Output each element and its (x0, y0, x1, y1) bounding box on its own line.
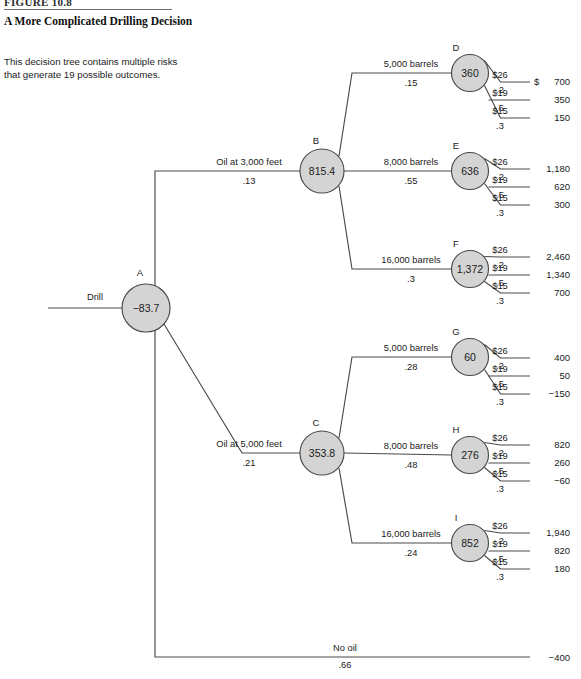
payoff-I-1: 820 (554, 545, 570, 556)
payoff-H-2: −60 (554, 475, 570, 486)
payoff-D-2: 150 (554, 112, 570, 123)
payoff-H-0: 820 (554, 439, 570, 450)
price-label-I-1: $19 (492, 539, 508, 549)
node-value-H: 276 (461, 449, 479, 461)
branch-label-D: 5,000 barrels (384, 59, 439, 69)
price-prob-F-2: .3 (496, 296, 504, 306)
node-id-C: C (313, 417, 320, 428)
price-label-D-1: $19 (492, 88, 508, 98)
node-id-H: H (453, 424, 460, 435)
payoff-H-1: 260 (554, 457, 570, 468)
branch-label-B: Oil at 3,000 feet (216, 157, 282, 167)
payoff-E-2: 300 (554, 199, 570, 210)
payoff-E-0: 1,180 (546, 163, 570, 174)
branch-prob-E: .55 (405, 176, 418, 186)
payoff-G-1: 50 (559, 370, 570, 381)
price-prob-H-2: .3 (496, 484, 504, 494)
price-prob-I-2: .3 (496, 572, 504, 582)
figure-container: FIGURE 10.8 A More Complicated Drilling … (0, 0, 581, 679)
node-id-E: E (453, 140, 459, 151)
price-label-H-0: $26 (492, 433, 508, 443)
price-label-F-1: $19 (492, 263, 508, 273)
node-value-I: 852 (461, 537, 479, 549)
branch-label-G: 5,000 barrels (384, 343, 439, 353)
branch-label-no-oil: No oil (333, 643, 357, 653)
node-value-F: 1,372 (457, 263, 483, 275)
price-label-G-2: $15 (492, 382, 508, 392)
branch-label-E: 8,000 barrels (384, 157, 439, 167)
price-label-G-1: $19 (492, 364, 508, 374)
price-prob-D-2: .3 (496, 121, 504, 131)
branch-prob-B: .13 (243, 176, 256, 186)
tree-text: Oil at 3,000 feet.13Oil at 5,000 feet.21… (87, 42, 570, 671)
node-id-G: G (452, 326, 459, 337)
payoff-G-2: −150 (549, 388, 570, 399)
node-value-E: 636 (461, 165, 479, 177)
branch-prob-G: .28 (405, 362, 418, 372)
node-value-G: 60 (464, 351, 476, 363)
price-label-E-1: $19 (492, 175, 508, 185)
branch-label-H: 8,000 barrels (384, 441, 439, 451)
price-label-D-2: $15 (492, 106, 508, 116)
payoff-F-1: 1,340 (546, 269, 570, 280)
price-label-G-0: $26 (492, 346, 508, 356)
price-prob-E-2: .3 (496, 208, 504, 218)
price-label-H-1: $19 (492, 451, 508, 461)
price-prob-G-2: .3 (496, 397, 504, 407)
decision-label-drill: Drill (87, 292, 103, 302)
payoff-F-2: 700 (554, 287, 570, 298)
node-id-B: B (313, 135, 319, 146)
price-label-E-0: $26 (492, 157, 508, 167)
node-value-B: 815.4 (309, 165, 335, 177)
branch-label-C: Oil at 5,000 feet (216, 439, 282, 449)
node-value-A: −83.7 (133, 302, 160, 314)
node-id-A: A (137, 267, 144, 278)
price-label-F-2: $15 (492, 281, 508, 291)
payoff-I-0: 1,940 (546, 527, 570, 538)
node-id-F: F (453, 238, 459, 249)
payoff-D-1: 350 (554, 94, 570, 105)
branch-prob-no-oil: .66 (339, 660, 352, 670)
payoff-no-oil: −400 (549, 652, 570, 663)
payoff-D-0: 700 (554, 76, 570, 87)
branch-prob-H: .48 (405, 460, 418, 470)
branch-prob-I: .24 (405, 548, 418, 558)
node-id-D: D (453, 42, 460, 53)
node-value-C: 353.8 (309, 447, 335, 459)
price-label-H-2: $15 (492, 469, 508, 479)
branch-prob-C: .21 (243, 458, 256, 468)
node-value-D: 360 (461, 67, 479, 79)
tree-nodes (122, 55, 489, 562)
payoff-F-0: 2,460 (546, 251, 570, 262)
decision-tree-svg: Oil at 3,000 feet.13Oil at 5,000 feet.21… (0, 0, 581, 679)
branch-prob-D: .15 (405, 78, 418, 88)
node-id-I: I (455, 512, 458, 523)
payoff-I-2: 180 (554, 563, 570, 574)
price-label-F-0: $26 (492, 245, 508, 255)
price-label-I-0: $26 (492, 521, 508, 531)
price-label-D-0: $26 (492, 70, 508, 80)
payoff-E-1: 620 (554, 181, 570, 192)
branch-prob-F: .3 (407, 274, 415, 284)
price-label-I-2: $15 (492, 557, 508, 567)
branch-label-F: 16,000 barrels (381, 255, 441, 265)
payoff-G-0: 400 (554, 352, 570, 363)
payoff-currency-symbol: $ (534, 76, 540, 87)
branch-label-I: 16,000 barrels (381, 529, 441, 539)
price-label-E-2: $15 (492, 193, 508, 203)
